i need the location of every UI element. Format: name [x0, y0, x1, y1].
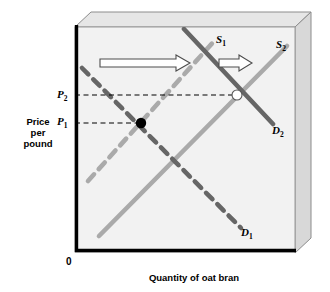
curve-label-d2-letter: D	[272, 124, 280, 136]
equilibrium-marker-e1	[136, 118, 146, 128]
x-axis-label: Quantity of oat bran	[104, 272, 284, 283]
supply-demand-figure: Price per pound Quantity of oat bran 0 P…	[0, 0, 330, 292]
curve-label-s1-sub: 1	[222, 39, 226, 48]
curve-label-s2-sub: 2	[282, 44, 286, 53]
equilibrium-marker-e2	[232, 90, 242, 100]
price-tick-p2-sub: 2	[64, 94, 68, 103]
origin-label: 0	[66, 256, 72, 267]
box-right-wall	[295, 12, 311, 253]
price-tick-label-p1: P1	[57, 115, 67, 130]
price-tick-p1-sub: 1	[64, 121, 68, 130]
curve-label-s2: S2	[276, 38, 286, 53]
curve-label-d1-letter: D	[241, 226, 249, 238]
curve-label-s1: S1	[216, 33, 226, 48]
y-axis-label-line2: per	[31, 127, 46, 138]
price-tick-label-p2: P2	[57, 88, 67, 103]
box-top-wall	[75, 12, 311, 27]
price-tick-p2-letter: P	[57, 88, 64, 100]
curve-label-d2-sub: 2	[280, 130, 284, 139]
curve-label-d1: D1	[241, 226, 253, 241]
y-axis-label-line3: pound	[23, 138, 52, 149]
curve-label-d2: D2	[272, 124, 284, 139]
y-axis-label-line1: Price	[26, 116, 49, 127]
price-tick-p1-letter: P	[57, 115, 64, 127]
curve-label-d1-sub: 1	[249, 232, 253, 241]
